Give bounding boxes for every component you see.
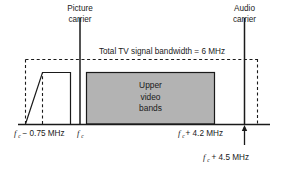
picture-carrier-label-line1: Picture	[67, 4, 93, 13]
picture-carrier-label-line2: carrier	[68, 15, 91, 24]
bandwidth-note-label: Total TV signal bandwidth = 6 MHz	[99, 47, 225, 56]
audio-carrier-label-line2: carrier	[233, 15, 256, 24]
axis-label-audio-rest: + 4.5 MHz	[212, 153, 250, 162]
upper-video-bands-label-line1: Upper	[139, 80, 162, 90]
axis-label-upper-edge: f c + 4.2 MHz	[178, 128, 223, 139]
axis-label-upper-edge-rest: + 4.2 MHz	[186, 129, 224, 138]
upper-video-bands-label-line3: bands	[139, 103, 162, 113]
spectrum-diagram: Picture carrier Audio carrier Total TV s…	[0, 0, 281, 175]
audio-carrier-label-line1: Audio	[234, 4, 255, 13]
tv-channel-spectrum-figure: Picture carrier Audio carrier Total TV s…	[0, 0, 281, 175]
axis-label-lower-edge: f c − 0.75 MHz	[14, 128, 65, 139]
upper-video-bands-label-line2: video	[140, 92, 160, 102]
axis-label-lower-edge-rest: − 0.75 MHz	[23, 129, 65, 138]
